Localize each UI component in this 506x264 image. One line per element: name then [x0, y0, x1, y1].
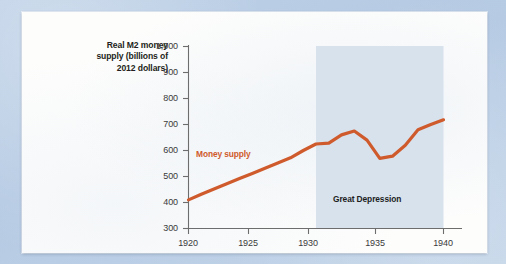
y-tick-label-600: 600: [140, 145, 178, 155]
money-supply-label: Money supply: [196, 149, 251, 159]
y-tick-label-800: 800: [140, 93, 178, 103]
x-tick-label-1925: 1925: [226, 238, 270, 248]
x-tick-label-1935: 1935: [353, 238, 397, 248]
y-axis-title-line-2: supply (billions of: [40, 51, 168, 62]
great-depression-label: Great Depression: [333, 194, 401, 204]
y-tick-label-1000: 1,000: [140, 41, 178, 51]
y-tick-label-400: 400: [140, 197, 178, 207]
y-tick-label-500: 500: [140, 171, 178, 181]
y-tick-label-700: 700: [140, 119, 178, 129]
y-tick-label-900: 900: [140, 67, 178, 77]
x-tick-label-1940: 1940: [421, 238, 465, 248]
chart-page: Real M2 money supply (billions of 2012 d…: [0, 0, 506, 264]
x-tick-label-1920: 1920: [166, 238, 210, 248]
x-axis-ticks: [189, 229, 444, 235]
y-axis-ticks: [183, 47, 188, 229]
y-tick-label-300: 300: [140, 223, 178, 233]
x-tick-label-1930: 1930: [286, 238, 330, 248]
